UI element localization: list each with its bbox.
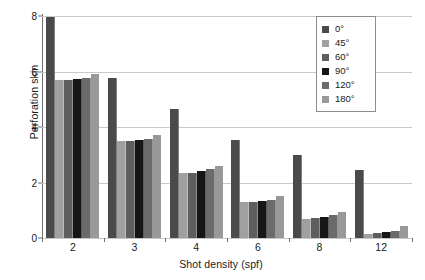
- x-axis-tick-label: 4: [165, 241, 227, 253]
- bar: [311, 218, 320, 238]
- bar: [188, 173, 197, 238]
- x-axis-tick-mark: [412, 238, 413, 242]
- x-axis-tick-label: 8: [289, 241, 351, 253]
- bar-group: [227, 16, 289, 238]
- bar: [258, 201, 267, 238]
- bar: [144, 139, 153, 238]
- bar-group: [165, 16, 227, 238]
- x-axis-tick-mark: [289, 238, 290, 242]
- legend-item: 120°: [322, 78, 371, 92]
- bar: [215, 166, 223, 238]
- x-axis-tick-label: 6: [227, 241, 289, 253]
- legend-item-label: 60°: [335, 52, 349, 62]
- legend-item: 60°: [322, 50, 371, 64]
- legend-swatch-icon: [322, 26, 329, 33]
- bar-group: [42, 16, 104, 238]
- legend-item-label: 45°: [335, 38, 349, 48]
- bar: [55, 80, 64, 238]
- bar: [82, 78, 91, 238]
- bar: [64, 80, 73, 238]
- bar: [206, 169, 215, 238]
- legend-item-label: 180°: [335, 94, 355, 104]
- x-axis-tick-mark: [165, 238, 166, 242]
- legend-item: 90°: [322, 64, 371, 78]
- x-axis-tick-label: 12: [350, 241, 412, 253]
- x-axis-tick-mark: [350, 238, 351, 242]
- legend-swatch-icon: [322, 40, 329, 47]
- bar: [382, 232, 391, 238]
- bar: [364, 234, 373, 238]
- legend-swatch-icon: [322, 82, 329, 89]
- legend-swatch-icon: [322, 96, 329, 103]
- bar: [91, 74, 99, 238]
- legend-item: 0°: [322, 22, 371, 36]
- bar: [267, 200, 276, 238]
- bar: [126, 141, 135, 238]
- bar: [46, 17, 55, 238]
- x-axis-tick-label: 3: [104, 241, 166, 253]
- x-axis-tick-label: 2: [42, 241, 104, 253]
- bar: [179, 173, 188, 238]
- legend-item-label: 120°: [335, 80, 355, 90]
- bar: [391, 231, 400, 238]
- bar: [153, 135, 161, 238]
- legend-item-label: 0°: [335, 24, 344, 34]
- x-axis-tick-mark: [104, 238, 105, 242]
- x-axis-tick-mark: [227, 238, 228, 242]
- bar-chart-figure: Perforation skin 02468 2346812 Shot dens…: [0, 0, 425, 280]
- legend-item: 180°: [322, 92, 371, 106]
- bar-group-bars: [170, 16, 223, 238]
- bar-group-bars: [231, 16, 284, 238]
- legend-item: 45°: [322, 36, 371, 50]
- legend-swatch-icon: [322, 54, 329, 61]
- bar: [108, 78, 117, 238]
- bar: [329, 215, 338, 238]
- x-axis-tick-labels: 2346812: [42, 241, 412, 253]
- bar: [249, 202, 258, 238]
- bar: [355, 170, 364, 238]
- bar: [302, 219, 311, 238]
- bar: [73, 79, 82, 238]
- bar: [373, 233, 382, 238]
- bar: [170, 109, 179, 238]
- legend: 0°45°60°90°120°180°: [316, 16, 376, 112]
- bar-group-bars: [108, 16, 161, 238]
- bar: [197, 171, 206, 238]
- x-axis-tick-mark: [42, 238, 43, 242]
- y-axis-title: Perforation skin: [28, 22, 40, 182]
- legend-swatch-icon: [322, 68, 329, 75]
- bar: [293, 155, 302, 238]
- legend-item-label: 90°: [335, 66, 349, 76]
- bar-group-bars: [46, 16, 99, 238]
- bar: [400, 226, 408, 238]
- bar: [135, 140, 144, 238]
- bar: [338, 212, 346, 238]
- bar: [240, 202, 249, 238]
- bar-group: [104, 16, 166, 238]
- bar: [276, 196, 284, 238]
- x-axis-title: Shot density (spf): [30, 258, 412, 270]
- bar: [117, 141, 126, 238]
- bar: [320, 217, 329, 238]
- bar: [231, 140, 240, 239]
